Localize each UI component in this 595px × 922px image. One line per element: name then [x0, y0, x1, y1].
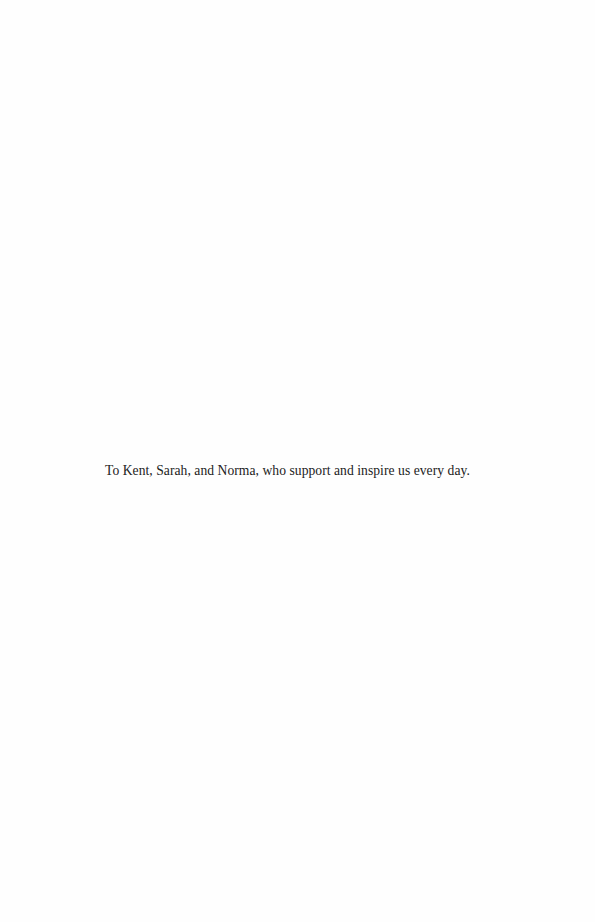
book-page: To Kent, Sarah, and Norma, who support a… [0, 0, 595, 922]
dedication-text: To Kent, Sarah, and Norma, who support a… [105, 462, 470, 480]
